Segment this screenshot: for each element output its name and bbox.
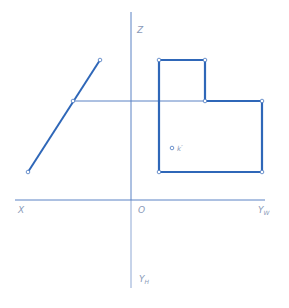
vertex-points — [26, 58, 264, 174]
vertex-point — [260, 170, 264, 174]
projection-diagram: Z X O YW YH k″ — [0, 0, 289, 308]
l-shape-outline — [159, 60, 262, 172]
vertex-point — [157, 58, 161, 62]
vertex-point — [26, 170, 30, 174]
vertex-point — [157, 170, 161, 174]
point-k-label: k″ — [177, 144, 183, 153]
z-axis-label: Z — [136, 25, 144, 35]
x-axis-label: X — [17, 205, 25, 215]
vertex-point — [71, 99, 75, 103]
point-k-marker — [170, 146, 174, 150]
origin-label: O — [138, 205, 145, 215]
vertex-point — [203, 58, 207, 62]
slanted-edge — [28, 60, 100, 172]
yw-axis-label: YW — [258, 205, 271, 216]
yh-axis-label: YH — [139, 274, 150, 285]
vertex-point — [260, 99, 264, 103]
vertex-point — [203, 99, 207, 103]
vertex-point — [98, 58, 102, 62]
